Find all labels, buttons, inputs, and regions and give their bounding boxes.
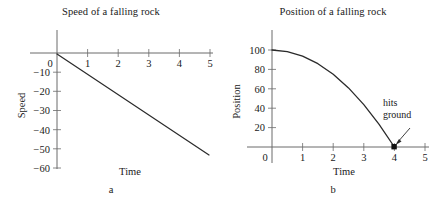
panel-caption-b: b <box>222 184 444 195</box>
x-axis-title-speed: Time <box>90 166 170 177</box>
annotation-line-2: ground <box>383 109 411 121</box>
x-tick-label: 1 <box>300 152 305 163</box>
chart-title-speed: Speed of a falling rock <box>0 6 222 17</box>
y-tick-label: −10 <box>34 67 50 78</box>
panel-position-chart: Position of a falling rock <box>222 0 444 202</box>
panel-caption-a: a <box>0 184 222 195</box>
y-tick-label: −20 <box>34 86 50 97</box>
y-axis-title-position: Position <box>231 72 242 132</box>
x-tick-label: 4 <box>392 152 398 163</box>
x-tick-label: 4 <box>177 58 183 69</box>
speed-data-line <box>57 54 209 155</box>
annotation-line-1: hits <box>383 97 411 109</box>
figure-two-panel-falling-rock: Speed of a falling rock <box>0 0 444 202</box>
x-tick-label: 3 <box>146 58 151 69</box>
hits-ground-marker <box>391 144 396 149</box>
y-tick-label: −60 <box>34 163 50 174</box>
y-tick-label: 60 <box>255 84 266 95</box>
y-tick-label: −40 <box>34 125 50 136</box>
y-tick-label: −30 <box>34 105 50 116</box>
x-tick-label: 2 <box>331 152 336 163</box>
y-tick-labels-speed: −10 −20 −30 −40 −50 −60 <box>34 67 50 174</box>
x-axis-title-position: Time <box>304 166 384 177</box>
y-tick-label: 40 <box>255 103 266 114</box>
chart-title-position: Position of a falling rock <box>222 6 444 17</box>
annotation-arrow-head <box>396 139 402 145</box>
x-tick-label: 5 <box>207 58 212 69</box>
y-tick-label: 100 <box>249 45 265 56</box>
y-tick-labels-position: 20 40 60 80 100 <box>249 45 265 134</box>
y-tick-label: 80 <box>255 64 266 75</box>
y-axis-title-speed: Speed <box>16 76 27 136</box>
hits-ground-annotation: hits ground <box>383 97 411 120</box>
panel-speed-chart: Speed of a falling rock <box>0 0 222 202</box>
x-tick-label: 5 <box>422 152 427 163</box>
y-tick-label: −50 <box>34 144 50 155</box>
position-data-curve <box>272 50 394 147</box>
x-tick-label: 0 <box>262 152 267 163</box>
y-tick-label: 20 <box>255 122 266 133</box>
x-tick-labels-position: 0 1 2 3 4 5 <box>262 152 427 163</box>
x-tick-label: 2 <box>116 58 121 69</box>
x-tick-label: 1 <box>85 58 90 69</box>
x-tick-label: 3 <box>361 152 366 163</box>
